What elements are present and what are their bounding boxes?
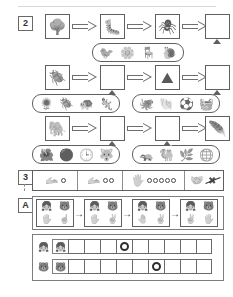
grid-cell[interactable]: [164, 239, 180, 254]
beetle-black-icon[interactable]: 🪲: [59, 98, 74, 110]
chair-icon[interactable]: 🪑: [141, 47, 156, 59]
grid-cell[interactable]: [116, 239, 132, 254]
answer-blank-box[interactable]: [155, 116, 180, 141]
grid-cell[interactable]: [196, 259, 212, 274]
section-label-2: 2: [18, 16, 33, 31]
grid-cell[interactable]: [180, 239, 196, 254]
mountain-icon: ⛰: [161, 70, 174, 85]
image-cell-mountain: ⛰: [155, 65, 180, 90]
options-row1: 🐦🌼🪑🐌: [92, 43, 184, 62]
shell-icon[interactable]: 🐚: [159, 98, 174, 110]
hand-four-icon: 🖐: [89, 215, 100, 224]
table-row-bear: 🐻🐻: [37, 258, 219, 275]
image-cell-caterpillar: 🐛: [100, 14, 125, 39]
food-chain-row-2: 🪲⛰🌻🪲🐢🦎🐙🐚⚽🧺: [32, 65, 224, 101]
image-cell-tree: 🌳: [45, 14, 70, 39]
answer-blank-box[interactable]: [100, 116, 125, 141]
grid-cell[interactable]: [132, 259, 148, 274]
flower-icon[interactable]: 🌺: [39, 149, 54, 161]
panel-4[interactable]: 👧🐻✌🖐: [180, 199, 218, 227]
hand-icon: 🖐: [131, 175, 145, 186]
camel-icon[interactable]: 🐫: [159, 149, 174, 161]
answer-blank-box[interactable]: [100, 65, 125, 90]
sequence-arrow-icon: →: [74, 208, 84, 219]
count-cell-4: 🤝✖: [185, 171, 223, 190]
beetle-icon: 🪲: [48, 70, 67, 85]
grid-cell[interactable]: [148, 239, 164, 254]
flower-icon[interactable]: 🌼: [120, 47, 135, 59]
section-label-3: 3: [18, 170, 33, 185]
flow-arrow-icon: [72, 22, 98, 31]
marked-ring-icon: [152, 262, 161, 271]
count-dots: [103, 178, 114, 183]
grid-cell[interactable]: [84, 259, 100, 274]
bear-face-icon: 🐻: [203, 202, 214, 211]
tree-icon: 🌳: [48, 19, 67, 34]
girl-face-icon: 👧: [37, 242, 49, 252]
pill-pointer-icon: [214, 39, 222, 44]
hands-crossed-icon: 🤝: [190, 175, 204, 186]
grid-header-bear-face: 🐻: [52, 259, 68, 274]
grid-cell[interactable]: [164, 259, 180, 274]
flow-arrow-icon: [72, 124, 98, 133]
panel-3[interactable]: 👧🐻🤚✌: [132, 199, 170, 227]
count-dot: [159, 178, 164, 183]
flow-arrow-icon: [127, 73, 153, 82]
pill-pointer-icon: [164, 141, 172, 146]
sequence-arrow-icon: →: [170, 208, 180, 219]
sphere-icon[interactable]: ⚫: [59, 149, 74, 161]
food-chain-row-1: 🌳🐛🕷🐦🌼🪑🐌: [32, 14, 224, 50]
hand-two-icon: ✌: [107, 215, 118, 224]
sunflower-icon[interactable]: 🌻: [39, 98, 54, 110]
grass-icon[interactable]: 🌿: [179, 149, 194, 161]
flow-arrow-icon: [127, 124, 153, 133]
sequence-arrow-icon: →: [122, 208, 132, 219]
armadillo-icon[interactable]: 🦡: [139, 149, 154, 161]
hand-icon: 🫴: [45, 175, 59, 186]
bear-face-icon: 🐻: [107, 202, 118, 211]
answer-blank-box[interactable]: [205, 14, 230, 39]
panel-1[interactable]: 👧🐻🖐☝: [36, 199, 74, 227]
count-cell-2: 🫴: [78, 171, 123, 190]
elephant-icon: 🐘: [48, 121, 67, 136]
panel-2[interactable]: 👧🐻🖐✌: [84, 199, 122, 227]
girl-face-icon: 👧: [41, 202, 52, 211]
grid-cell[interactable]: [196, 239, 212, 254]
clock-icon[interactable]: 🕒: [79, 149, 94, 161]
grid-cell[interactable]: [84, 239, 100, 254]
octopus-icon[interactable]: 🐙: [139, 98, 154, 110]
count-cell-3: 🖐: [123, 171, 185, 190]
count-dot: [153, 178, 158, 183]
cross-out-icon: ✖: [206, 175, 219, 186]
wolf-icon[interactable]: 🐺: [99, 149, 114, 161]
answer-blank-box[interactable]: [205, 65, 230, 90]
grid-cell[interactable]: [100, 239, 116, 254]
grid-cell[interactable]: [116, 259, 132, 274]
grid-cell[interactable]: [68, 239, 84, 254]
grid-cell[interactable]: [100, 259, 116, 274]
hand-three-icon: ✌: [155, 215, 166, 224]
options-row3-right: 🦡🐫🌿🌐: [132, 145, 220, 164]
basket-icon[interactable]: 🧺: [199, 98, 214, 110]
lizard-icon[interactable]: 🦎: [99, 98, 114, 110]
worksheet-page: 2 🌳🐛🕷🐦🌼🪑🐌🪲⛰🌻🪲🐢🦎🐙🐚⚽🧺🐘🪶🌺⚫🕒🐺🦡🐫🌿🌐 3 🫴🫴🖐🤝✖ A …: [0, 0, 233, 297]
count-cell-1: 🫴: [33, 171, 78, 190]
ball-icon[interactable]: ⚽: [179, 98, 194, 110]
image-cell-beetle: 🪲: [45, 65, 70, 90]
turtle-icon[interactable]: 🐢: [79, 98, 94, 110]
section-3-counting-strip: 🫴🫴🖐🤝✖: [32, 170, 224, 191]
grid-cell[interactable]: [180, 259, 196, 274]
hand-five-icon: 🖐: [41, 215, 52, 224]
globe-icon[interactable]: 🌐: [199, 149, 214, 161]
grid-cell[interactable]: [132, 239, 148, 254]
grid-cell[interactable]: [148, 259, 164, 274]
caterpillar-icon: 🐛: [103, 19, 122, 34]
snail-icon[interactable]: 🐌: [162, 47, 177, 59]
flow-arrow-icon: [127, 22, 153, 31]
bird-icon[interactable]: 🐦: [99, 47, 114, 59]
grid-cell[interactable]: [68, 259, 84, 274]
girl-face-icon: 👧: [89, 202, 100, 211]
image-cell-spider: 🕷: [155, 14, 180, 39]
hand-two-icon: ✌: [185, 215, 196, 224]
pill-pointer-icon: [214, 90, 222, 95]
